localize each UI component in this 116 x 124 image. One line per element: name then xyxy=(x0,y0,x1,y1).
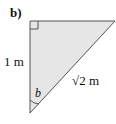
angle-label: b xyxy=(35,87,41,99)
hypotenuse-label: √2 m xyxy=(72,74,99,87)
side-length-label: 1 m xyxy=(4,55,24,68)
part-label: b) xyxy=(10,6,22,19)
triangle xyxy=(30,21,115,113)
